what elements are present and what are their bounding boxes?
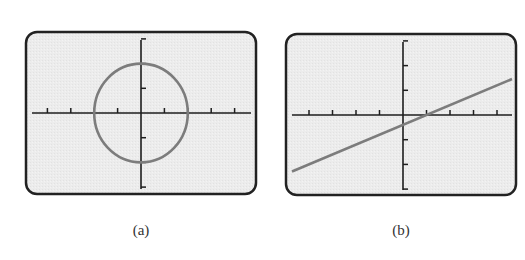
graph-panel-a xyxy=(26,32,256,194)
figure: (a) (b) xyxy=(0,0,525,260)
graph-panel-b xyxy=(286,34,516,195)
caption-b: (b) xyxy=(392,222,410,239)
plots-canvas xyxy=(0,0,525,260)
caption-a: (a) xyxy=(133,222,150,239)
